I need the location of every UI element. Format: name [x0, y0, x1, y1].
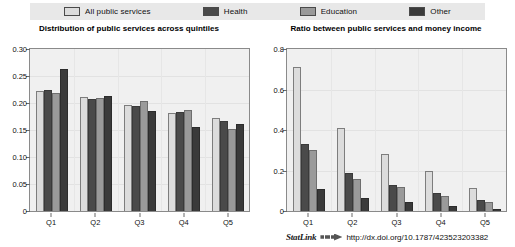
bar: [485, 202, 493, 211]
x-tick-q1: Q1: [29, 213, 73, 229]
bar: [381, 154, 389, 211]
plot-area-right: 00.20.40.60.8: [286, 48, 507, 212]
legend-swatch-icon: [203, 7, 219, 16]
bar-group: [74, 49, 118, 211]
x-tick-label: Q2: [347, 218, 357, 227]
legend-entry: Other: [409, 7, 451, 16]
bar: [168, 113, 176, 211]
x-tick-label: Q5: [480, 218, 490, 227]
legend-entry: Health: [203, 7, 248, 16]
bar: [293, 67, 301, 211]
bar: [361, 198, 369, 211]
bar: [493, 209, 501, 211]
bar: [212, 118, 220, 211]
legend-entry: All public services: [64, 7, 150, 16]
x-tick-mark: [396, 213, 397, 217]
x-tick-mark: [308, 213, 309, 217]
bar: [228, 129, 236, 211]
plot-area-left: 00.050.100.150.200.250.30: [29, 48, 250, 212]
bar: [353, 179, 361, 211]
legend-label: Health: [224, 7, 248, 16]
chart-panel-left: Distribution of public services across q…: [2, 24, 256, 229]
x-tick-q4: Q4: [419, 213, 463, 229]
bar: [441, 196, 449, 211]
y-tick-label: 0.6: [274, 86, 284, 95]
x-tick-label: Q3: [135, 218, 145, 227]
x-tick-q5: Q5: [206, 213, 250, 229]
x-tick-q5: Q5: [463, 213, 507, 229]
bar: [309, 150, 317, 211]
chart-legend: All public servicesHealthEducationOther: [30, 3, 485, 20]
bar: [124, 105, 132, 211]
x-tick-q2: Q2: [73, 213, 117, 229]
x-tick-label: Q4: [179, 218, 189, 227]
bar-group: [206, 49, 250, 211]
x-tick-label: Q1: [303, 218, 313, 227]
x-tick-q4: Q4: [162, 213, 206, 229]
y-tick-label: 0.4: [274, 126, 284, 135]
legend-label: All public services: [85, 7, 150, 16]
bar: [44, 90, 52, 211]
x-tick-label: Q1: [46, 218, 56, 227]
x-tick-q2: Q2: [330, 213, 374, 229]
y-tick-label: 0: [280, 207, 284, 216]
x-tick-mark: [484, 213, 485, 217]
statlink-label: StatLink: [286, 232, 316, 242]
bar: [132, 106, 140, 211]
bar: [345, 173, 353, 211]
bar: [96, 98, 104, 211]
x-tick-mark: [51, 213, 52, 217]
x-tick-label: Q3: [392, 218, 402, 227]
chart-title-left: Distribution of public services across q…: [2, 24, 256, 33]
legend-swatch-icon: [409, 7, 425, 16]
legend-swatch-icon: [64, 7, 80, 16]
legend-swatch-icon: [300, 7, 316, 16]
bar-group: [419, 49, 463, 211]
bar: [88, 99, 96, 211]
bar: [301, 144, 309, 211]
bar: [405, 202, 413, 211]
bar: [192, 127, 200, 211]
x-tick-mark: [352, 213, 353, 217]
bar-group: [30, 49, 74, 211]
x-tick-label: Q2: [90, 218, 100, 227]
bar: [176, 112, 184, 211]
bar: [60, 69, 68, 211]
y-tick-label: 0.15: [12, 126, 27, 135]
y-tick-label: 0.05: [12, 180, 27, 189]
bar: [477, 200, 485, 211]
bar: [337, 128, 345, 211]
bar: [449, 206, 457, 211]
legend-entry: Education: [300, 7, 357, 16]
bar: [36, 91, 44, 211]
arrow-bars-icon: [320, 234, 342, 241]
bar-group: [331, 49, 375, 211]
bar: [389, 185, 397, 211]
x-tick-mark: [227, 213, 228, 217]
statlink-url[interactable]: http://dx.doi.org/10.1787/423523203382: [346, 233, 488, 242]
chart-panel-right: Ratio between public services and money …: [259, 24, 513, 229]
bar-group: [375, 49, 419, 211]
bar-group: [162, 49, 206, 211]
x-tick-label: Q4: [436, 218, 446, 227]
y-tick-label: 0.2: [274, 167, 284, 176]
bar: [184, 110, 192, 211]
bar: [317, 189, 325, 211]
statlink-footer: StatLink http://dx.doi.org/10.1787/42352…: [286, 230, 488, 244]
x-axis-right: Q1Q2Q3Q4Q5: [286, 213, 507, 229]
bar: [80, 97, 88, 211]
y-tick-label: 0.8: [274, 45, 284, 54]
x-axis-left: Q1Q2Q3Q4Q5: [29, 213, 250, 229]
y-tick-label: 0.30: [12, 45, 27, 54]
figure-root: All public servicesHealthEducationOther …: [0, 0, 515, 247]
bar: [140, 101, 148, 211]
bar: [236, 124, 244, 211]
y-tick-label: 0.25: [12, 72, 27, 81]
x-tick-mark: [139, 213, 140, 217]
legend-label: Other: [430, 7, 451, 16]
bar-group: [118, 49, 162, 211]
x-tick-q1: Q1: [286, 213, 330, 229]
bar: [433, 193, 441, 211]
bar: [220, 121, 228, 211]
legend-label: Education: [321, 7, 357, 16]
